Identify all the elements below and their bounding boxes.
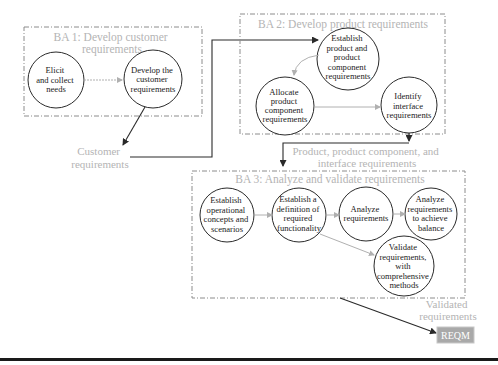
node-elicit-needs: Elicit and collect needs [28, 52, 84, 108]
flow-arrow-icon [123, 107, 145, 145]
node-establish-required-functionality: Establish a definition of required funct… [272, 188, 326, 242]
customer-requirements-label: Customer requirements [71, 145, 128, 170]
requirements-development-diagram: BA 1: Develop customer requirements Elic… [0, 0, 498, 365]
ba3-title: BA 3: Analyze and validate requirements [235, 173, 425, 186]
svg-text:Establish a definition: Establish a definition of required funct… [277, 194, 322, 233]
node-develop-customer-requirements: Develop the customer requirements [124, 50, 182, 108]
ba3-group: BA 3: Analyze and validate requirements … [192, 171, 465, 298]
reqm-target-box: REQM [437, 327, 474, 343]
node-establish-operational-concepts: Establish operational concepts and scena… [200, 188, 254, 242]
product-requirements-label: Product, product component, and interfac… [292, 145, 441, 169]
node-analyze-requirements-balance: Analyze requirements to achieve balance [405, 188, 457, 240]
node-identify-interface-requirements: Identify interface requirements [381, 77, 437, 133]
reqm-label: REQM [441, 330, 470, 341]
node-validate-requirements: Validate requirements, with comprehensiv… [374, 236, 434, 296]
ba1-group: BA 1: Develop customer requirements Elic… [24, 27, 202, 116]
node-analyze-requirements: Analyze requirements [339, 187, 393, 241]
validated-requirements-label: Validated requirements [419, 298, 476, 322]
node-allocate-component-requirements: Allocate product component requirements [256, 77, 314, 135]
flow-arrow-icon [294, 55, 319, 75]
ba2-group: BA 2: Develop product requirements Estab… [240, 14, 445, 135]
ba1-title-line-2: requirements [82, 43, 143, 56]
node-establish-product-requirements: Establish product and product component … [317, 28, 379, 90]
svg-text:Develop the customer: Develop the customer requirements [131, 65, 177, 94]
footer-rule [0, 358, 498, 361]
